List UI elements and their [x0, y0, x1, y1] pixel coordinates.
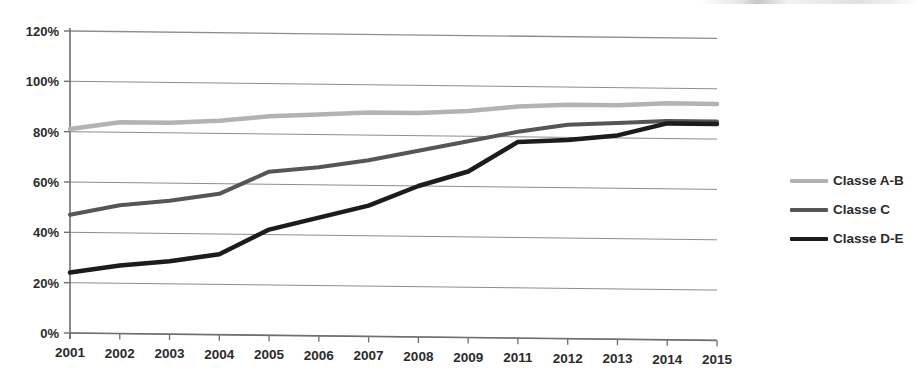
- legend-label-classe-a-b: Classe A-B: [833, 173, 904, 188]
- gridline-20: [70, 283, 717, 290]
- chart-page: 0%20%40%60%80%100%120%200120022003200420…: [0, 0, 922, 384]
- legend-label-classe-c: Classe C: [833, 202, 890, 217]
- x-tick-label-2006: 2006: [304, 348, 335, 363]
- x-tick-label-2002: 2002: [105, 346, 135, 361]
- gridline-60: [70, 182, 717, 189]
- y-tick-label-0%: 0%: [40, 326, 59, 341]
- x-tick-label-2014: 2014: [652, 352, 683, 367]
- legend-label-classe-d-e: Classe D-E: [833, 231, 904, 246]
- x-tick-label-2012: 2012: [553, 351, 583, 366]
- gridline-40: [70, 232, 717, 240]
- x-tick-label-2003: 2003: [155, 346, 186, 361]
- y-tick-label-80%: 80%: [33, 125, 59, 140]
- gridline-100: [70, 81, 717, 89]
- legend-item-classe-d-e: Classe D-E: [790, 224, 920, 253]
- legend-swatch-classe-a-b: [790, 179, 828, 183]
- y-tick-label-100%: 100%: [26, 74, 60, 89]
- x-tick-label-2004: 2004: [204, 347, 235, 362]
- x-tick-label-2015: 2015: [702, 352, 733, 367]
- legend-item-classe-a-b: Classe A-B: [790, 166, 920, 195]
- x-tick-label-2008: 2008: [403, 349, 434, 364]
- x-tick-label-2011: 2011: [503, 350, 533, 365]
- y-tick-label-20%: 20%: [33, 276, 59, 291]
- series-line-classe-a-b: [70, 103, 717, 129]
- x-tick-label-2007: 2007: [354, 348, 384, 363]
- chart-plot-area: 0%20%40%60%80%100%120%200120022003200420…: [0, 0, 760, 384]
- x-tick-label-2005: 2005: [254, 347, 285, 362]
- series-line-classe-d-e: [70, 123, 717, 272]
- line-chart-svg: 0%20%40%60%80%100%120%200120022003200420…: [0, 0, 760, 384]
- y-tick-label-40%: 40%: [33, 225, 59, 240]
- legend-swatch-classe-c: [790, 208, 828, 212]
- y-tick-label-120%: 120%: [26, 24, 60, 39]
- gridline-120: [70, 31, 717, 38]
- x-tick-label-2013: 2013: [602, 351, 633, 366]
- chart-legend: Classe A-B Classe C Classe D-E: [790, 166, 920, 253]
- x-axis-line: [70, 333, 717, 340]
- legend-swatch-classe-d-e: [790, 237, 828, 241]
- x-tick-label-2009: 2009: [453, 350, 483, 365]
- y-tick-label-60%: 60%: [33, 175, 59, 190]
- legend-item-classe-c: Classe C: [790, 195, 920, 224]
- x-tick-label-2001: 2001: [55, 345, 86, 360]
